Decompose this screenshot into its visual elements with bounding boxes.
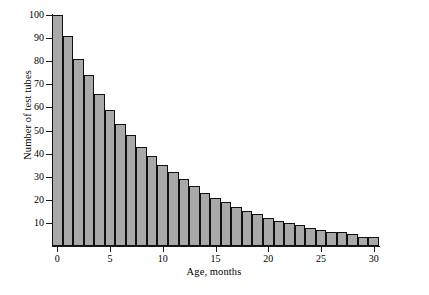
bar: [358, 237, 369, 246]
bar: [189, 186, 200, 246]
x-tick-label: 15: [201, 253, 231, 265]
y-tick-label-text: 40: [18, 149, 44, 159]
x-tick-mark: [110, 247, 111, 252]
x-tick-mark: [216, 247, 217, 252]
bar: [326, 232, 337, 246]
x-tick-label: 5: [95, 253, 125, 265]
bar: [252, 214, 263, 246]
bar: [221, 202, 232, 246]
bar: [231, 207, 242, 246]
y-tick-label-text: 70: [18, 79, 44, 89]
bar: [157, 165, 168, 246]
y-tick-label-text: 80: [18, 56, 44, 66]
bar: [210, 198, 221, 247]
bar: [347, 234, 358, 246]
x-tick-mark: [163, 247, 164, 252]
bar: [94, 94, 105, 246]
bar: [368, 237, 379, 246]
bar: [63, 36, 74, 246]
x-tick-mark: [57, 247, 58, 252]
y-tick-label: 90: [14, 33, 44, 43]
bar: [295, 225, 306, 246]
bar: [305, 228, 316, 246]
bar: [115, 124, 126, 246]
y-tick-label-text: 10: [18, 218, 44, 228]
bar: [126, 135, 137, 246]
bar: [263, 218, 274, 246]
bar: [284, 223, 295, 246]
bar: [136, 147, 147, 246]
y-tick-label-text: 20: [18, 195, 44, 205]
y-tick-label: 40: [14, 149, 44, 159]
y-tick-label: 50: [14, 126, 44, 136]
bar: [168, 172, 179, 246]
bar: [179, 179, 190, 246]
y-tick-label: 20: [14, 195, 44, 205]
x-axis-title: Age, months: [50, 266, 378, 277]
x-tick-label: 30: [359, 253, 389, 265]
bar: [105, 110, 116, 246]
y-tick-label-text: 90: [18, 33, 44, 43]
y-tick-label-text: 100: [18, 10, 44, 20]
x-tick-label: 10: [148, 253, 178, 265]
histogram-chart: Number of test tubes 1020304050607080901…: [0, 0, 429, 295]
y-tick-label-text: 50: [18, 126, 44, 136]
bar: [73, 59, 84, 246]
x-tick-mark: [321, 247, 322, 252]
bar: [316, 230, 327, 246]
y-tick-label: 70: [14, 79, 44, 89]
x-tick-label: 25: [306, 253, 336, 265]
bar: [84, 75, 95, 246]
bar: [52, 15, 63, 246]
y-tick-label: 80: [14, 56, 44, 66]
plot-area: [52, 15, 379, 246]
y-tick-label: 10: [14, 218, 44, 228]
y-tick-label: 60: [14, 102, 44, 112]
x-tick-mark: [374, 247, 375, 252]
y-tick-label: 30: [14, 172, 44, 182]
bar: [242, 211, 253, 246]
x-tick-mark: [268, 247, 269, 252]
bar: [147, 156, 158, 246]
x-tick-label: 20: [253, 253, 283, 265]
y-tick-label: 100: [14, 10, 44, 20]
bar: [200, 193, 211, 246]
x-tick-label: 0: [42, 253, 72, 265]
bar: [337, 232, 348, 246]
y-tick-label-text: 30: [18, 172, 44, 182]
y-tick-label-text: 60: [18, 102, 44, 112]
bar: [274, 221, 285, 246]
